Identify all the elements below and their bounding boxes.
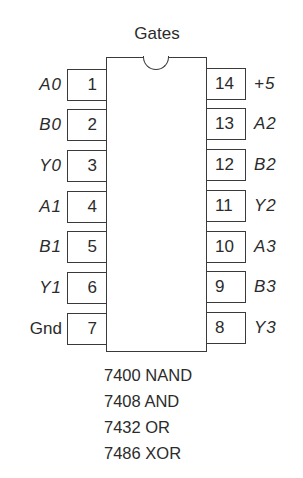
- part-7408: 7408 AND: [104, 388, 192, 414]
- pin-6-signal: Y1: [39, 272, 62, 304]
- pin-8: 8: [206, 312, 246, 344]
- pin-7-signal: Gnd: [30, 313, 62, 345]
- pin-10-signal: A3: [254, 231, 277, 263]
- diagram-title: Gates: [0, 24, 303, 44]
- pin-3: 3: [67, 150, 107, 182]
- pin-11: 11: [206, 190, 246, 222]
- part-7432: 7432 OR: [104, 414, 192, 440]
- pin-2: 2: [67, 109, 107, 141]
- pin-5-signal: B1: [39, 231, 62, 263]
- part-list: 7400 NAND 7408 AND 7432 OR 7486 XOR: [104, 362, 192, 466]
- pin-1: 1: [67, 69, 107, 101]
- chip-body: [106, 57, 207, 352]
- pin-2-signal: B0: [39, 109, 62, 141]
- pin-3-signal: Y0: [39, 150, 62, 182]
- pin-11-signal: Y2: [254, 190, 277, 222]
- part-7400: 7400 NAND: [104, 362, 192, 388]
- pin-12-signal: B2: [254, 149, 277, 181]
- pin-8-signal: Y3: [254, 312, 277, 344]
- pin-10: 10: [206, 231, 246, 263]
- part-7486: 7486 XOR: [104, 440, 192, 466]
- pin-9: 9: [206, 271, 246, 303]
- pin-4-signal: A1: [39, 191, 62, 223]
- pin-12: 12: [206, 149, 246, 181]
- pin-6: 6: [67, 272, 107, 304]
- pin-14: 14: [206, 68, 246, 100]
- pin-13-signal: A2: [254, 108, 277, 140]
- pin-13: 13: [206, 108, 246, 140]
- pin-14-signal: +5: [254, 68, 275, 100]
- pin-7: 7: [67, 313, 107, 345]
- pin-9-signal: B3: [254, 271, 277, 303]
- pin-5: 5: [67, 231, 107, 263]
- pin-1-signal: A0: [39, 69, 62, 101]
- pin-4: 4: [67, 191, 107, 223]
